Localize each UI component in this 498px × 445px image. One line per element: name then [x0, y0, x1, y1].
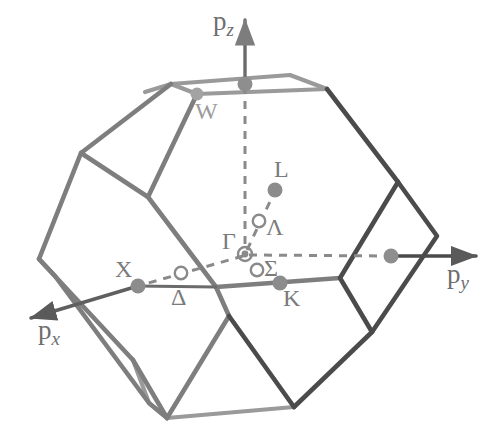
point-label-W: W	[195, 99, 218, 123]
axis-label-py-sub: y	[461, 272, 469, 293]
marker-X-right[interactable]	[384, 249, 399, 264]
point-label-delta: Δ	[171, 285, 186, 309]
edge-bottom-front	[229, 316, 294, 407]
point-label-lambda: Λ	[266, 215, 283, 239]
axis-label-py-base: p	[447, 259, 461, 289]
marker-lambda[interactable]	[253, 215, 265, 227]
brillouin-zone-svg	[0, 0, 498, 445]
dash-gamma-to-Xleft	[138, 256, 243, 286]
axis-label-pz-sub: z	[227, 19, 234, 40]
edge-bottom-far	[167, 407, 294, 418]
marker-L[interactable]	[268, 183, 283, 198]
axis-label-pz: pz	[213, 8, 234, 39]
point-label-gamma: Γ	[222, 229, 236, 253]
marker-gamma-dot[interactable]	[242, 251, 249, 258]
axis-label-px-base: p	[38, 315, 52, 345]
edge-upper-right-silhouette	[327, 89, 398, 182]
axis-label-px-sub: x	[52, 328, 60, 349]
polyhedron-mid-edges	[39, 84, 340, 418]
point-label-L: L	[274, 157, 289, 181]
axis-label-py: py	[447, 261, 469, 292]
point-label-sigma: Σ	[264, 256, 278, 280]
point-label-K: K	[283, 286, 300, 310]
polyhedron-front-edges	[229, 89, 437, 407]
marker-X-top[interactable]	[238, 77, 253, 92]
edge-lower-right-silhouette	[294, 332, 372, 407]
point-label-X-left: X	[115, 257, 132, 281]
marker-delta[interactable]	[175, 267, 187, 279]
axis-label-px: px	[38, 317, 60, 348]
marker-X-left[interactable]	[131, 279, 146, 294]
marker-sigma[interactable]	[251, 264, 263, 276]
brillouin-zone-figure: pz py px W L Λ Γ Σ K X Δ	[0, 0, 498, 445]
axis-label-pz-base: p	[213, 6, 227, 36]
